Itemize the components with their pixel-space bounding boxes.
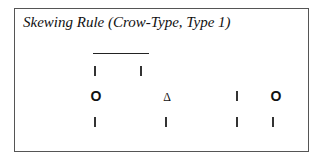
- circle-mark: O: [91, 89, 102, 103]
- bar-mark: [272, 117, 274, 127]
- bar-mark: [165, 117, 167, 127]
- overline: [93, 53, 149, 54]
- bar-mark: [94, 66, 96, 76]
- triangle-mark: Δ: [163, 91, 171, 103]
- bar-mark: [236, 117, 238, 127]
- diagram-title: Skewing Rule (Crow-Type, Type 1): [23, 14, 231, 31]
- bar-mark: [140, 66, 142, 76]
- bar-mark: [236, 91, 238, 101]
- bar-mark: [94, 117, 96, 127]
- circle-mark: O: [271, 89, 282, 103]
